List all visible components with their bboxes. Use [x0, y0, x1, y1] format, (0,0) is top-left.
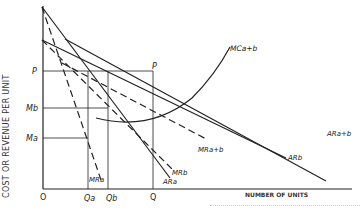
point-p-label: P: [152, 62, 157, 71]
x-tick-qa: Qa: [84, 194, 95, 203]
y-axis-label: COST OR REVENUE PER UNIT: [2, 38, 11, 198]
price-discrimination-diagram: P Mb Ma P O Qa Qb Q MCa+b ARa+b ARb MRa+…: [0, 0, 362, 212]
diagram-canvas: P Mb Ma P O Qa Qb Q MCa+b ARa+b ARb MRa+…: [0, 0, 362, 212]
mr-a-label: MRa: [89, 176, 104, 184]
x-tick-origin: O: [40, 193, 46, 202]
ar-a-label: ARa: [162, 178, 177, 186]
x-tick-qb: Qb: [106, 194, 117, 203]
ar-a-b-line: [65, 39, 326, 181]
x-tick-q: Q: [150, 193, 156, 202]
mr-b-label: MRb: [172, 169, 188, 177]
y-tick-mb: Mb: [26, 104, 38, 113]
mr-a-line: [42, 7, 101, 180]
mr-a-b-label: MRa+b: [198, 146, 224, 154]
mr-a-b-line: [62, 63, 208, 140]
y-tick-p: P: [32, 67, 37, 76]
ar-b-line: [42, 40, 286, 158]
ar-b-label: ARb: [287, 154, 303, 162]
caption-remnant: [210, 205, 360, 210]
mc-a-b-curve: [96, 47, 230, 122]
y-tick-ma: Ma: [26, 134, 38, 143]
mc-a-b-label: MCa+b: [230, 44, 258, 53]
ar-a-b-label: ARa+b: [326, 130, 352, 138]
x-axis-label: NUMBER OF UNITS: [245, 191, 308, 198]
